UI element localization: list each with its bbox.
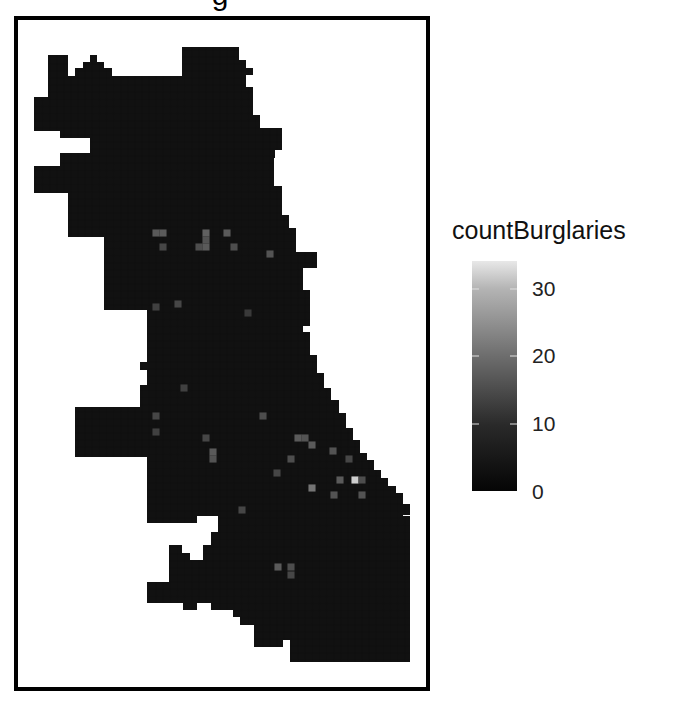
grid-cell [266,250,273,257]
grid-cell [209,455,216,462]
grid-cell [223,229,230,236]
grid-cell [180,384,187,391]
color-legend: countBurglaries 30 20 10 0 [452,216,692,506]
grid-cell [152,412,159,419]
grid-cell [287,563,294,570]
legend-title: countBurglaries [452,216,626,245]
legend-label-10: 10 [532,412,555,436]
grid-cell [358,476,365,483]
grid-cell [238,506,245,513]
grid-cell [294,434,301,441]
grid-cell [274,563,281,570]
grid-cell [174,300,181,307]
grid-cell [329,447,336,454]
legend-label-0: 0 [532,480,544,504]
grid-cell [358,491,365,498]
grid-cell [159,229,166,236]
grid-cell [202,434,209,441]
grid-cell [152,229,159,236]
legend-label-30: 30 [532,277,555,301]
grid-cell [152,428,159,435]
grid-cell [259,412,266,419]
grid-cell [287,455,294,462]
grid-cell [345,455,352,462]
grid-cell [308,441,315,448]
grid-cell [287,571,294,578]
grid-cell [152,303,159,310]
grid-cell [202,243,209,250]
grid-cell [336,476,343,483]
grid-cell [202,236,209,243]
grid-cell [351,476,358,483]
grid-cell [195,243,202,250]
grid-cell [202,229,209,236]
grid-cell [159,243,166,250]
grid-cell [301,434,308,441]
legend-label-20: 20 [532,344,555,368]
grid-cell [273,469,280,476]
grid-cell [209,448,216,455]
grid-cell [308,484,315,491]
grid-cell [330,491,337,498]
grid-cell [244,309,251,316]
grid-cell [230,243,237,250]
legend-colorbar [472,261,517,491]
